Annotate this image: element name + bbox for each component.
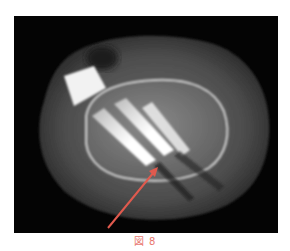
figure: 図 8 [0,0,290,251]
ct-scan-graphic [14,16,278,233]
figure-caption: 図 8 [0,235,290,249]
ct-scan-image [14,16,278,233]
